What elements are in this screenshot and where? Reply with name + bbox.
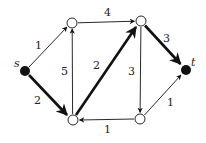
node-d [135, 114, 145, 124]
edge-d-t [145, 75, 182, 115]
node-b [136, 16, 146, 26]
edge-c-b [76, 27, 136, 115]
weight-c-a: 5 [61, 65, 68, 78]
weight-d-t: 1 [167, 96, 174, 109]
node-label-t: t [191, 56, 196, 69]
weight-s-a: 1 [35, 39, 42, 52]
edge-b-d [140, 27, 141, 113]
flow-network-diagram: s t 1 2 5 4 2 3 3 1 1 [0, 0, 206, 143]
weight-b-d: 3 [128, 65, 135, 78]
weight-d-c: 1 [104, 123, 111, 136]
node-label-s: s [14, 57, 20, 70]
edge-a-b [78, 21, 135, 23]
node-s [20, 66, 30, 76]
weight-s-c: 2 [34, 94, 41, 107]
weight-b-t: 3 [163, 32, 170, 45]
node-a [67, 18, 77, 28]
edge-d-c [80, 119, 135, 120]
node-t [181, 65, 191, 75]
weight-a-b: 4 [104, 6, 111, 19]
weight-c-b: 2 [93, 59, 100, 72]
node-c [68, 115, 78, 125]
